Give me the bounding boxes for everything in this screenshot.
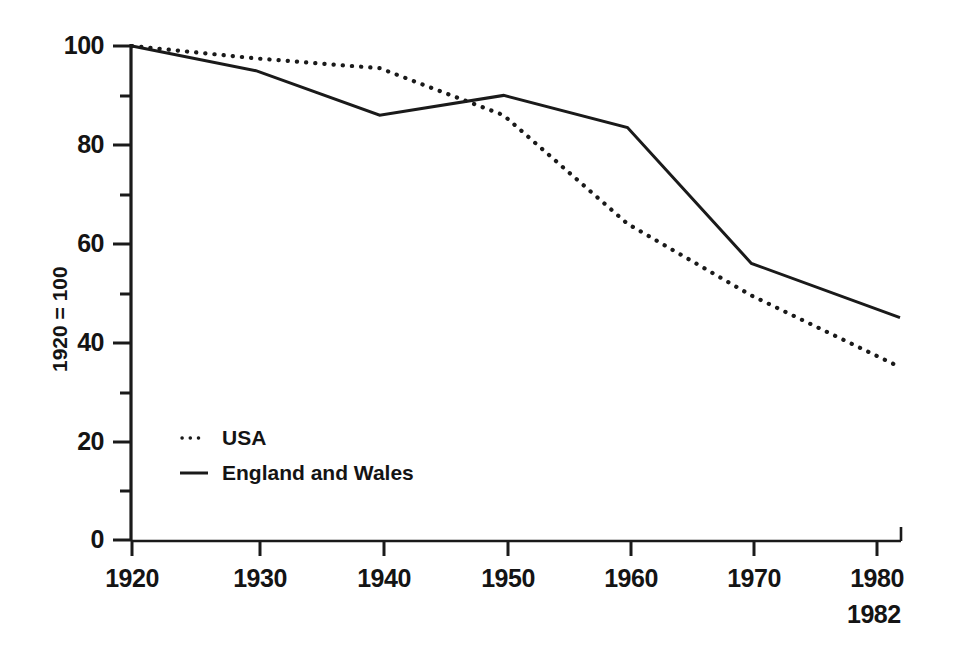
x-tick-label-1930: 1930	[200, 564, 320, 593]
series-line-england-and-wales	[132, 46, 900, 318]
y-tick-label-80: 80	[8, 130, 104, 159]
chart-plot-area	[0, 0, 972, 649]
x-tick-label-1980: 1980	[817, 564, 937, 593]
y-axis-title: 1920 = 100	[48, 266, 72, 372]
x-tick-label-1970: 1970	[694, 564, 814, 593]
series-line-usa	[132, 46, 900, 367]
x-tick-label-1950: 1950	[448, 564, 568, 593]
y-tick-label-60: 60	[8, 229, 104, 258]
x-tick-label-1920: 1920	[72, 564, 192, 593]
y-tick-label-20: 20	[8, 427, 104, 456]
x-axis-end-year-label: 1982	[847, 600, 901, 629]
y-axis-minor-ticks	[120, 96, 131, 491]
y-tick-label-0: 0	[8, 525, 104, 554]
y-tick-label-100: 100	[8, 31, 104, 60]
chart-container: 100 80 60 40 20 0 1920 1930 1940 1950 19…	[0, 0, 972, 649]
legend-label-england-and-wales: England and Wales	[222, 461, 414, 485]
x-axis-ticks	[132, 541, 877, 556]
x-tick-label-1960: 1960	[571, 564, 691, 593]
legend-label-usa: USA	[222, 426, 266, 450]
x-tick-label-1940: 1940	[324, 564, 444, 593]
